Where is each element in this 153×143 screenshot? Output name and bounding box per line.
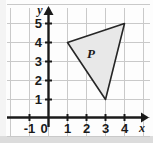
x-tick-label-2: 2 — [83, 121, 90, 136]
coordinate-plane-svg: 5 4 3 2 1 -1 0 1 2 3 4 y x P — [0, 0, 153, 143]
y-tick-label-4: 4 — [35, 35, 43, 50]
x-tick-label-0: 0 — [40, 121, 47, 136]
figure-screenshot: 5 4 3 2 1 -1 0 1 2 3 4 y x P — [0, 0, 153, 143]
x-tick-label-4: 4 — [121, 121, 129, 136]
y-tick-label-3: 3 — [35, 54, 42, 69]
coordinate-plane: 5 4 3 2 1 -1 0 1 2 3 4 y x P — [0, 0, 153, 143]
x-axis-label: x — [138, 121, 145, 135]
y-axis-arrowhead — [44, 6, 54, 15]
x-tick-label-neg1: -1 — [24, 121, 36, 136]
y-tick-label-1: 1 — [35, 92, 42, 107]
shape-label-p: P — [87, 46, 96, 61]
x-tick-label-3: 3 — [102, 121, 109, 136]
y-axis-label: y — [35, 3, 43, 17]
y-tick-label-2: 2 — [35, 73, 42, 88]
y-tick-label-5: 5 — [35, 16, 42, 31]
x-tick-label-1: 1 — [64, 121, 71, 136]
